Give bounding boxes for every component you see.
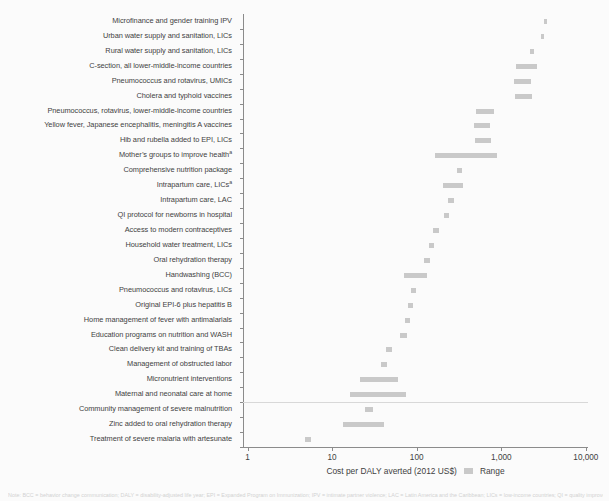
y-axis-label: Oral rehydration therapy — [0, 256, 236, 264]
y-axis-tick — [240, 29, 244, 30]
y-axis-label: Intrapartum care, LAC — [0, 196, 236, 204]
x-axis-tick-label: 100 — [410, 453, 424, 462]
y-axis-label: Intrapartum care, LICsa — [0, 181, 236, 189]
range-bar — [411, 288, 416, 293]
range-bar — [444, 213, 449, 218]
y-axis-tick — [240, 253, 244, 254]
y-axis-tick — [240, 223, 244, 224]
y-axis-tick — [240, 432, 244, 433]
y-axis-label: Micronutrient interventions — [0, 375, 236, 383]
y-axis-label: Maternal and neonatal care at home — [0, 390, 236, 398]
y-axis-label: Household water treatment, LICs — [0, 241, 236, 249]
y-axis-tick — [240, 133, 244, 134]
y-axis-label: Management of obstructed labor — [0, 360, 236, 368]
legend-label-range: Range — [480, 466, 505, 476]
y-axis-tick — [240, 313, 244, 314]
range-bar — [429, 243, 434, 248]
x-axis-tick-label: 10,000 — [573, 453, 598, 462]
plot-area — [243, 14, 588, 447]
y-axis-tick — [240, 193, 244, 194]
x-axis-tick — [586, 447, 587, 451]
y-axis-tick — [240, 104, 244, 105]
y-axis-tick — [240, 372, 244, 373]
y-axis-label: Home management of fever with antimalari… — [0, 316, 236, 324]
y-axis-label: Rural water supply and sanitation, LICs — [0, 47, 236, 55]
range-bar — [474, 123, 490, 128]
y-axis-label: Cholera and typhoid vaccines — [0, 92, 236, 100]
x-axis-tick — [417, 447, 418, 451]
category-separator-line — [243, 402, 588, 403]
y-axis-tick — [240, 357, 244, 358]
y-axis-tick — [240, 44, 244, 45]
range-bar — [365, 407, 373, 412]
range-bar — [404, 273, 427, 278]
range-bar — [476, 109, 494, 114]
y-axis-tick — [240, 89, 244, 90]
y-axis-label: Hib and rubella added to EPI, LICs — [0, 136, 236, 144]
chart-figure: Microfinance and gender training IPVUrba… — [0, 0, 609, 501]
x-axis-tick-label: 1,000 — [491, 453, 512, 462]
x-axis-tick-label: 1 — [245, 453, 250, 462]
y-axis-tick — [240, 178, 244, 179]
y-axis-label: Comprehensive nutrition package — [0, 166, 236, 174]
x-axis-title: Cost per DALY averted (2012 US$) — [326, 466, 457, 476]
y-axis-label: Yellow fever, Japanese encephalitis, men… — [0, 121, 236, 129]
range-bar — [475, 138, 491, 143]
y-axis-label: C-section, all lower-middle-income count… — [0, 62, 236, 70]
y-axis-label: QI protocol for newborns in hospital — [0, 211, 236, 219]
y-axis-tick — [240, 328, 244, 329]
range-bar — [530, 49, 534, 54]
y-axis-tick — [240, 163, 244, 164]
y-axis-tick — [240, 59, 244, 60]
x-axis-line — [243, 447, 588, 448]
range-bar — [544, 19, 547, 24]
range-bar — [424, 258, 430, 263]
y-axis-label: Pneumococcus and rotavirus, LICs — [0, 286, 236, 294]
x-axis-tick — [248, 447, 249, 451]
y-axis-tick — [240, 417, 244, 418]
x-axis-tick — [332, 447, 333, 451]
y-axis-tick — [240, 74, 244, 75]
y-axis-label: Pneumococcus and rotavirus, UMICs — [0, 77, 236, 85]
y-axis-tick — [240, 283, 244, 284]
range-bar — [443, 183, 462, 188]
x-axis-tick-label: 10 — [328, 453, 337, 462]
y-axis-label: Treatment of severe malaria with artesun… — [0, 435, 236, 443]
y-axis-label: Education programs on nutrition and WASH — [0, 331, 236, 339]
y-axis-tick — [240, 119, 244, 120]
y-axis-tick — [240, 387, 244, 388]
y-axis-label: Clean delivery kit and training of TBAs — [0, 345, 236, 353]
range-bar — [408, 303, 413, 308]
y-axis-label: Urban water supply and sanitation, LICs — [0, 32, 236, 40]
x-axis-tick — [501, 447, 502, 451]
y-axis-tick — [240, 208, 244, 209]
range-bar — [350, 392, 405, 397]
y-axis-label: Community management of severe malnutrit… — [0, 405, 236, 413]
y-axis-tick — [240, 238, 244, 239]
range-bar — [305, 437, 312, 442]
y-axis-label: Original EPI-6 plus hepatitis B — [0, 301, 236, 309]
range-bar — [435, 153, 497, 158]
range-bar — [386, 347, 392, 352]
range-bar — [360, 377, 397, 382]
y-axis-label: Zinc added to oral rehydration therapy — [0, 420, 236, 428]
range-bar — [516, 64, 537, 69]
y-axis-tick — [240, 268, 244, 269]
y-axis-tick — [240, 148, 244, 149]
range-bar — [457, 168, 462, 173]
figure-footnote: Note: BCC = behavior change communicatio… — [8, 492, 603, 499]
range-bar — [515, 94, 532, 99]
range-bar — [433, 228, 440, 233]
y-axis-label: Pneumococcus, rotavirus, lower-middle-in… — [0, 107, 236, 115]
y-axis-label: Access to modern contraceptives — [0, 226, 236, 234]
range-bar — [514, 79, 531, 84]
y-axis-label: Handwashing (BCC) — [0, 271, 236, 279]
range-bar — [343, 422, 384, 427]
range-bar — [448, 198, 453, 203]
y-axis-label: Mother’s groups to improve healtha — [0, 151, 236, 159]
axis-title-and-legend: Cost per DALY averted (2012 US$) Range — [243, 466, 588, 476]
range-bar — [405, 318, 411, 323]
range-bar — [541, 34, 545, 39]
range-bar — [381, 362, 387, 367]
range-bar — [400, 333, 407, 338]
